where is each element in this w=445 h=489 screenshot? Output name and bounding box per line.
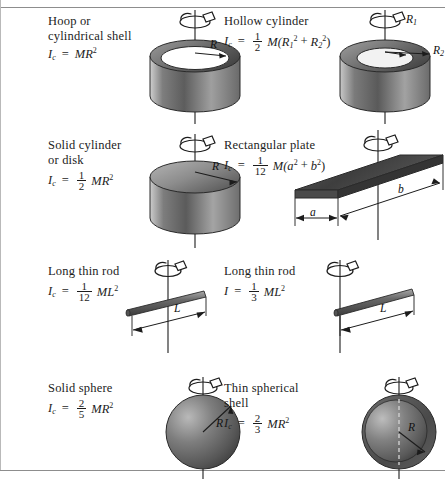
item-shell-text: Thin spherical shell Ic = 23 MR2 [224, 381, 299, 434]
left-rule [0, 0, 1, 470]
hollow-cylinder-r1-label: R1 [406, 13, 417, 27]
item-hoop-text: Hoop or cylindrical shell Ic = MR2 [48, 14, 132, 62]
rod-end-length-label: L [380, 302, 386, 314]
item-rod-end-text: Long thin rod I = 13 ML2 [224, 264, 295, 302]
hollow-cylinder-r2-label: R2 [433, 44, 444, 58]
rotation-arrow-icon [180, 12, 215, 28]
rotation-arrow-icon [385, 378, 418, 394]
hoop-formula: Ic = MR2 [48, 46, 132, 62]
rotation-arrow-icon [189, 378, 222, 394]
rotation-arrow-icon [155, 261, 187, 277]
solid-sphere-caption: Solid sphere [48, 381, 113, 396]
solid-cylinder-caption-line1: Solid cylinder [48, 138, 121, 153]
rotation-arrow-icon [327, 261, 359, 277]
rotation-arrow-icon [364, 135, 398, 151]
rotation-arrow-icon [180, 136, 215, 152]
hollow-cylinder-caption: Hollow cylinder [224, 14, 330, 29]
rod-center-caption: Long thin rod [48, 264, 119, 279]
shell-formula: Ic = 23 MR2 [224, 413, 299, 434]
item-solid-cylinder-text: Solid cylinder or disk Ic = 12 MR2 [48, 138, 121, 191]
item-rod-end-figure: L [318, 258, 428, 363]
shell-caption-line1: Thin spherical [224, 381, 299, 396]
hoop-radius-label: R [210, 38, 217, 50]
hoop-caption-line2: cylindrical shell [48, 29, 132, 44]
rod-end-caption: Long thin rod [224, 264, 295, 279]
item-rod-center-figure: L [118, 258, 218, 363]
solid-cylinder-caption-line2: or disk [48, 153, 121, 168]
figure-sheet: Hoop or cylindrical shell Ic = MR2 [0, 0, 445, 489]
hollow-cylinder-formula: Ic = 12 M(R12 + R22) [224, 31, 330, 52]
rod-center-length-label: L [174, 302, 180, 314]
rod-end-formula: I = 13 ML2 [224, 281, 295, 302]
rotation-arrow-icon [370, 12, 405, 28]
item-shell-figure: R [355, 375, 445, 483]
solid-sphere-radius-label: R [216, 417, 223, 429]
item-hollow-cylinder-text: Hollow cylinder Ic = 12 M(R12 + R22) [224, 14, 330, 52]
rod-center-formula: Ic = 112 ML2 [48, 281, 119, 302]
item-rod-center-text: Long thin rod Ic = 112 ML2 [48, 264, 119, 302]
shell-caption-line2: shell [224, 396, 299, 411]
item-plate-figure: a b [250, 128, 445, 248]
plate-b-label: b [398, 183, 404, 195]
solid-sphere-formula: Ic = 25 MR2 [48, 398, 113, 419]
item-hollow-cylinder-figure: R1 R2 [330, 8, 440, 126]
hoop-caption-line1: Hoop or [48, 14, 132, 29]
item-solid-sphere-text: Solid sphere Ic = 25 MR2 [48, 381, 113, 419]
plate-a-label: a [310, 206, 316, 218]
solid-cylinder-formula: Ic = 12 MR2 [48, 170, 121, 191]
solid-cylinder-radius-label: R [212, 160, 219, 172]
shell-radius-label: R [408, 421, 415, 433]
